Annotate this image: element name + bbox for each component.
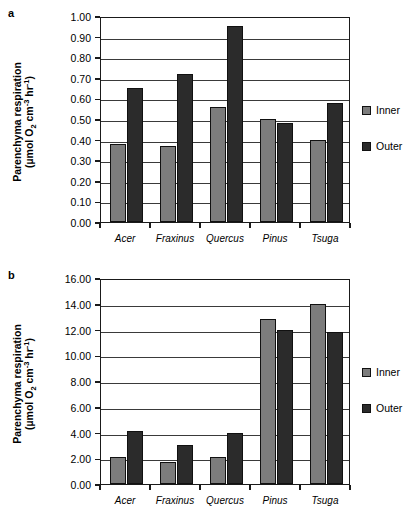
y-axis-tick-label: 0.50 [71, 115, 91, 125]
bar-a-pinus-outer [277, 123, 293, 222]
x-axis-tick-mark [199, 223, 201, 228]
y-axis-tick-mark [95, 37, 100, 39]
bar-b-fraxinus-outer [177, 445, 193, 484]
y-axis-tick-mark [95, 407, 100, 409]
bar-a-acer-inner [110, 144, 126, 222]
y-axis-tick-mark [95, 381, 100, 383]
legend-swatch-inner-icon [362, 106, 371, 115]
bar-b-acer-inner [110, 457, 126, 484]
y-axis-tick-label: 4.00 [71, 429, 91, 439]
bar-b-pinus-outer [277, 330, 293, 485]
bar-a-pinus-inner [260, 119, 276, 222]
y-axis-tick-mark [95, 99, 100, 101]
y-axis-tick-mark [95, 356, 100, 358]
y-axis-tick-mark [95, 119, 100, 121]
bar-b-quercus-outer [227, 433, 243, 485]
y-axis-tick-label: 14.00 [65, 300, 91, 310]
y-axis-tick-mark [95, 459, 100, 461]
panel-a-plot-area [100, 17, 350, 223]
y-axis-tick-label: 6.00 [71, 403, 91, 413]
x-axis-tick-label: Pinus [250, 495, 300, 506]
x-axis-tick-mark [349, 485, 351, 490]
y-axis-tick-label: 0.70 [71, 74, 91, 84]
y-axis-tick-mark [95, 57, 100, 59]
legend-label-outer: Outer [376, 140, 402, 153]
bar-a-tsuga-outer [327, 103, 343, 222]
x-axis-tick-label: Quercus [200, 233, 250, 244]
x-axis-tick-label: Pinus [250, 233, 300, 244]
legend-label-inner: Inner [376, 366, 400, 379]
bar-b-tsuga-inner [310, 304, 326, 484]
y-axis-tick-label: 16.00 [65, 274, 91, 284]
panel-b: b Parenchyma respiration (µmol O2 cm-3 h… [0, 262, 416, 524]
figure-parenchyma-respiration: a Parenchyma respiration (µmol O2 cm-3 h… [0, 0, 416, 525]
bar-a-quercus-inner [210, 107, 226, 222]
x-axis-tick-mark [249, 223, 251, 228]
axis-title-line-2: (µmol O2 cm-3 hr-1) [23, 37, 35, 207]
y-axis-tick-label: 0.90 [71, 33, 91, 43]
bar-group-container [101, 18, 349, 222]
y-axis-tick-label: 12.00 [65, 326, 91, 336]
y-axis-tick-label: 0.00 [71, 218, 91, 228]
panel-a-y-axis-title: Parenchyma respiration (µmol O2 cm-3 hr-… [11, 37, 35, 207]
bar-group-container [101, 280, 349, 484]
panel-b-label: b [8, 270, 15, 281]
y-axis-tick-mark [95, 304, 100, 306]
y-axis-tick-label: 2.00 [71, 454, 91, 464]
bar-a-quercus-outer [227, 26, 243, 222]
panel-b-y-axis-title: Parenchyma respiration (µmol O2 cm-3 hr-… [11, 299, 35, 469]
y-axis-tick-label: 1.00 [71, 12, 91, 22]
x-axis-tick-mark [299, 223, 301, 228]
y-axis-tick-label: 0.30 [71, 156, 91, 166]
y-axis-tick-label: 0.80 [71, 53, 91, 63]
y-axis-tick-label: 0.60 [71, 94, 91, 104]
bar-b-pinus-inner [260, 319, 276, 484]
bar-b-fraxinus-inner [160, 462, 176, 484]
y-axis-tick-mark [95, 160, 100, 162]
y-axis-tick-mark [95, 330, 100, 332]
y-axis-tick-label: 10.00 [65, 351, 91, 361]
y-axis-tick-label: 0.10 [71, 197, 91, 207]
x-axis-tick-mark [199, 485, 201, 490]
y-axis-tick-label: 0.00 [71, 480, 91, 490]
x-axis-tick-mark [249, 485, 251, 490]
x-axis-tick-mark [99, 485, 101, 490]
axis-title-line-2: (µmol O2 cm-3 hr-1) [23, 299, 35, 469]
bar-a-acer-outer [127, 88, 143, 222]
y-axis-tick-label: 8.00 [71, 377, 91, 387]
y-axis-tick-mark [95, 202, 100, 204]
bar-b-quercus-inner [210, 457, 226, 484]
y-axis-tick-mark [95, 278, 100, 280]
x-axis-tick-mark [149, 485, 151, 490]
y-axis-tick-mark [95, 181, 100, 183]
x-axis-tick-mark [99, 223, 101, 228]
x-axis-tick-label: Tsuga [300, 495, 350, 506]
legend-swatch-outer-icon [362, 142, 371, 151]
x-axis-tick-label: Acer [100, 233, 150, 244]
bar-a-fraxinus-outer [177, 74, 193, 222]
legend-label-outer: Outer [376, 402, 402, 415]
legend-swatch-outer-icon [362, 404, 371, 413]
y-axis-tick-label: 0.20 [71, 177, 91, 187]
x-axis-tick-mark [149, 223, 151, 228]
x-axis-tick-label: Acer [100, 495, 150, 506]
bar-a-tsuga-inner [310, 140, 326, 222]
bar-a-fraxinus-inner [160, 146, 176, 222]
y-axis-tick-label: 0.40 [71, 136, 91, 146]
legend-swatch-inner-icon [362, 368, 371, 377]
panel-b-plot-area [100, 279, 350, 485]
x-axis-tick-mark [299, 485, 301, 490]
panel-a: a Parenchyma respiration (µmol O2 cm-3 h… [0, 0, 416, 262]
x-axis-tick-label: Fraxinus [150, 495, 200, 506]
bar-b-acer-outer [127, 431, 143, 484]
y-axis-tick-mark [95, 433, 100, 435]
bar-b-tsuga-outer [327, 332, 343, 484]
x-axis-tick-label: Fraxinus [150, 233, 200, 244]
legend-label-inner: Inner [376, 104, 400, 117]
x-axis-tick-label: Quercus [200, 495, 250, 506]
x-axis-tick-mark [349, 223, 351, 228]
y-axis-tick-mark [95, 140, 100, 142]
y-axis-tick-mark [95, 78, 100, 80]
x-axis-tick-label: Tsuga [300, 233, 350, 244]
panel-a-label: a [8, 8, 14, 19]
